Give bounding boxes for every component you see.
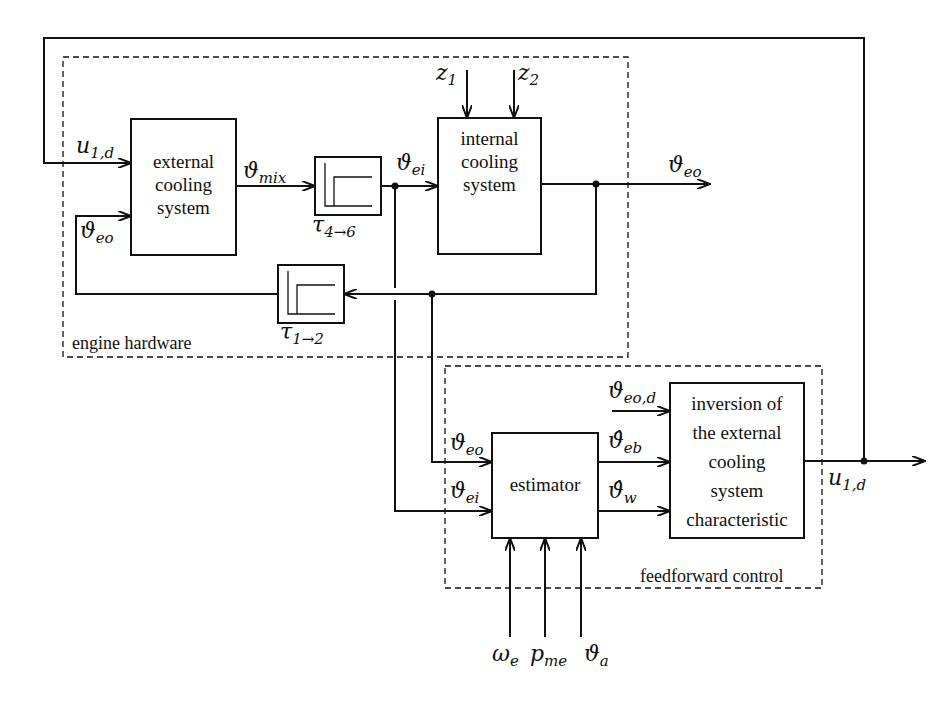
signal-theta-mix: ϑmix xyxy=(243,158,286,187)
signal-p-me: pme xyxy=(530,641,567,670)
signal-est-theta-eo: ϑeo xyxy=(450,430,484,459)
diagram-lines xyxy=(0,0,950,711)
inversion-label: inversion of the external cooling system… xyxy=(670,389,804,534)
external-cooling-label: external cooling system xyxy=(131,150,236,219)
signal-theta-eb-hat: ϑ̂eb xyxy=(608,428,642,457)
signal-theta-a: ϑa xyxy=(584,641,609,670)
signal-theta-ei: ϑei xyxy=(396,150,425,179)
signal-u1d-out: u1,d xyxy=(828,465,866,494)
signal-theta-eo-out: ϑeo xyxy=(668,152,702,181)
block-diagram: external cooling system internal cooling… xyxy=(0,0,950,711)
signal-theta-eo-in: ϑeo xyxy=(80,218,114,247)
step-response-icon xyxy=(288,271,335,314)
delay-forward-label: τ4→6 xyxy=(312,212,356,241)
signal-theta-w-hat: ϑ̂w xyxy=(608,478,637,507)
signal-omega-e: ωe xyxy=(492,641,519,670)
signal-u1d-in: u1,d xyxy=(76,133,114,162)
signal-z1: z1 xyxy=(436,60,457,89)
delay-feedback-label: τ1→2 xyxy=(280,319,324,348)
engine-hardware-caption: engine hardware xyxy=(72,333,191,354)
internal-cooling-label: internal cooling system xyxy=(438,127,541,196)
estimator-label: estimator xyxy=(492,473,598,496)
signal-theta-eo-d: ϑeo,d xyxy=(608,378,656,407)
feedforward-control-caption: feedforward control xyxy=(640,566,783,587)
signal-est-theta-ei: ϑei xyxy=(450,478,479,507)
signal-z2: z2 xyxy=(518,60,539,89)
step-response-icon xyxy=(325,163,372,206)
